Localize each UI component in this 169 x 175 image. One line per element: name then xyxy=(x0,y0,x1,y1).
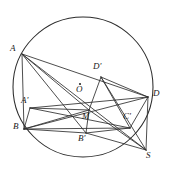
point-label-O: O xyxy=(76,85,83,94)
segment-B-Bp xyxy=(24,129,86,133)
segment-A-D xyxy=(22,54,148,97)
geometry-canvas xyxy=(0,0,169,175)
segment-Dp-D xyxy=(101,77,148,97)
segment-B-Cp xyxy=(24,128,130,129)
point-label-M: M xyxy=(82,112,90,121)
point-label-A: A xyxy=(10,44,16,53)
point-label-B: B xyxy=(13,122,19,131)
point-label-Cp: C' xyxy=(123,112,131,121)
segment-A-B xyxy=(22,54,24,129)
point-label-Bp: B' xyxy=(78,134,85,143)
point-label-Dp: D' xyxy=(93,62,101,71)
point-label-D: D xyxy=(153,89,160,98)
segment-M-Dp xyxy=(89,77,101,110)
segment-D-Cp xyxy=(130,97,148,128)
point-label-S: S xyxy=(146,151,151,160)
segment-A-M xyxy=(22,54,89,110)
segment-D-S xyxy=(146,97,148,150)
segment-Ap-B xyxy=(24,108,30,129)
geometry-figure: ABDB'SA'D'C'MO xyxy=(0,0,169,175)
point-label-Ap: A' xyxy=(21,96,28,105)
